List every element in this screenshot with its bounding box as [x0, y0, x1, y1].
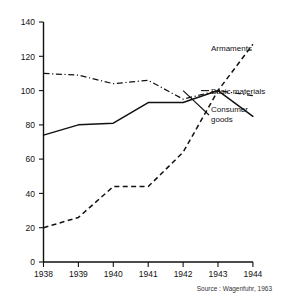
y-tick-label: 0	[30, 257, 35, 267]
line-chart: 140 120 100 80 60 40 20 0 1938 1939 1940…	[0, 0, 283, 300]
y-tick-label: 140	[21, 17, 35, 27]
x-axis-tick-labels: 1938 1939 1940 1941 1942 1943 1944	[34, 269, 263, 279]
chart-container: 140 120 100 80 60 40 20 0 1938 1939 1940…	[0, 0, 283, 300]
consumer-goods-label: Consumer	[211, 105, 248, 114]
y-tick-label: 120	[21, 52, 35, 62]
y-tick-label: 20	[26, 223, 36, 233]
source-note: Source : Wagenfuhr, 1963	[197, 285, 273, 293]
series-armaments	[44, 44, 253, 227]
x-tick-label: 1940	[104, 269, 123, 279]
x-tick-label: 1941	[139, 269, 158, 279]
x-tick-label: 1943	[209, 269, 228, 279]
x-tick-label: 1938	[34, 269, 53, 279]
y-tick-label: 40	[26, 189, 36, 199]
y-axis-tick-labels: 140 120 100 80 60 40 20 0	[21, 17, 35, 267]
basic-materials-label: Basic materials	[211, 87, 265, 96]
consumer-goods-label-2: goods	[211, 115, 233, 124]
x-tick-label: 1942	[174, 269, 193, 279]
y-tick-label: 60	[26, 154, 36, 164]
y-tick-label: 100	[21, 86, 35, 96]
armaments-label: Armaments	[211, 44, 252, 53]
x-tick-label: 1944	[243, 269, 262, 279]
x-axis-ticks	[44, 262, 253, 267]
y-tick-label: 80	[26, 120, 36, 130]
x-tick-label: 1939	[69, 269, 88, 279]
